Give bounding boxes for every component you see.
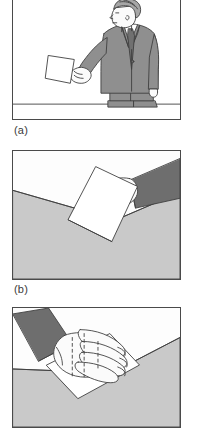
- panel-a-drawing: [13, 0, 180, 119]
- figure-panel-a: [12, 0, 181, 120]
- hand-near: [70, 67, 91, 83]
- shoe-right: [134, 101, 158, 107]
- panel-c-drawing: [13, 308, 180, 427]
- shoe-left: [108, 101, 134, 107]
- figure-panel-b: [12, 150, 181, 280]
- panel-a-caption: (a): [14, 124, 28, 136]
- jacket-button: [131, 60, 134, 63]
- hand-far: [149, 89, 158, 97]
- panel-b-caption: (b): [14, 283, 28, 295]
- figure-panel-c: [12, 307, 181, 428]
- panel-b-drawing: [13, 151, 180, 279]
- head: [112, 6, 136, 28]
- business-card: [46, 56, 75, 84]
